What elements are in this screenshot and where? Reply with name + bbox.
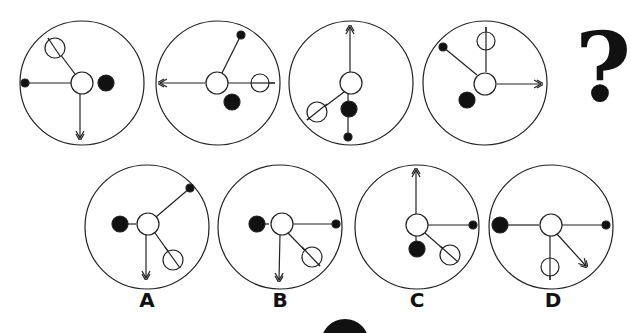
decorative-dark-circle <box>321 319 369 333</box>
option-b-label[interactable]: B <box>272 288 287 312</box>
option-c-label[interactable]: C <box>410 288 425 312</box>
sequence-figure-3 <box>289 21 413 145</box>
sequence-figure-2 <box>156 21 280 145</box>
puzzle-canvas <box>0 0 631 333</box>
option-a-label[interactable]: A <box>139 288 154 312</box>
sequence-figure-4 <box>423 21 547 145</box>
option-b-figure[interactable] <box>218 165 342 289</box>
option-d-figure[interactable] <box>489 165 613 289</box>
sequence-figure-1 <box>20 21 144 145</box>
option-c-figure[interactable] <box>355 165 479 289</box>
option-a-figure[interactable] <box>85 165 209 289</box>
question-mark: ? <box>575 20 631 116</box>
option-d-label[interactable]: D <box>545 288 562 312</box>
